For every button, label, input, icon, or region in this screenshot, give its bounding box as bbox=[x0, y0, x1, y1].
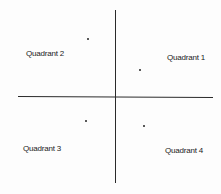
quadrant-2-label: Quadrant 2 bbox=[26, 49, 64, 58]
point-quadrant-1 bbox=[139, 69, 141, 71]
point-quadrant-2 bbox=[87, 38, 89, 40]
quadrant-1-label: Quadrant 1 bbox=[167, 53, 205, 62]
quadrant-4-label: Quadrant 4 bbox=[165, 146, 203, 155]
quadrant-3-label: Quadrant 3 bbox=[23, 144, 61, 153]
point-quadrant-3 bbox=[85, 120, 87, 122]
quadrant-diagram: Quadrant 2 Quadrant 1 Quadrant 3 Quadran… bbox=[0, 0, 221, 194]
y-axis bbox=[115, 10, 116, 183]
point-quadrant-4 bbox=[143, 125, 145, 127]
